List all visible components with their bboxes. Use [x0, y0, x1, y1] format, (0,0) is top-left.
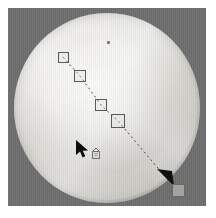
mouse-pointer-icon: [76, 140, 90, 159]
waypoint-4-handle[interactable]: [111, 114, 125, 128]
drop-target-handle[interactable]: [172, 184, 185, 197]
anchor-dot-marker[interactable]: [107, 41, 110, 44]
waypoint-1-handle[interactable]: [58, 52, 69, 63]
waypoint-2-handle[interactable]: [74, 70, 86, 82]
image-viewport[interactable]: [8, 8, 206, 206]
screenshot-root: [0, 0, 216, 218]
drag-ghost-icon: [90, 147, 102, 160]
waypoint-3-handle[interactable]: [95, 99, 107, 111]
